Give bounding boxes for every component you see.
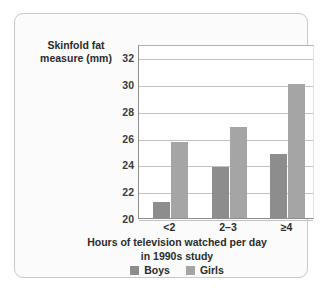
y-tick-label: 32 xyxy=(112,52,134,64)
y-tick-label: 20 xyxy=(112,213,134,225)
x-axis-title-line-2: in 1990s study xyxy=(37,250,317,264)
x-axis-tick-labels: <22–3≥4 xyxy=(138,221,314,236)
legend-label: Girls xyxy=(200,264,224,276)
y-axis-title-line-2: measure (mm) xyxy=(31,52,121,65)
legend-item-girls[interactable]: Girls xyxy=(186,264,224,276)
y-tick-label: 26 xyxy=(112,133,134,145)
x-tick-label: ≥4 xyxy=(281,221,293,233)
bar-group xyxy=(153,46,188,218)
y-tick-label: 30 xyxy=(112,79,134,91)
bar-girls-3[interactable] xyxy=(288,84,305,218)
legend-swatch-icon xyxy=(186,266,195,275)
y-axis-title-line-1: Skinfold fat xyxy=(31,39,121,52)
y-axis-tick-labels: 20222426283032 xyxy=(110,45,134,219)
plot-area xyxy=(138,45,314,219)
bar-girls-2[interactable] xyxy=(230,127,247,218)
bar-group xyxy=(212,46,247,218)
x-axis-title: Hours of television watched per day in 1… xyxy=(37,236,317,263)
y-tick-label: 22 xyxy=(112,186,134,198)
legend-label: Boys xyxy=(144,264,170,276)
legend-swatch-icon xyxy=(130,266,139,275)
y-axis-title: Skinfold fat measure (mm) xyxy=(31,39,121,65)
bars-layer xyxy=(139,46,313,218)
x-tick-label: 2–3 xyxy=(219,221,237,233)
y-tick-label: 24 xyxy=(112,159,134,171)
x-tick-label: <2 xyxy=(163,221,175,233)
y-tick-label: 28 xyxy=(112,106,134,118)
x-axis-title-line-1: Hours of television watched per day xyxy=(37,236,317,250)
chart-legend: BoysGirls xyxy=(37,264,317,276)
bar-girls-1[interactable] xyxy=(171,142,188,218)
bar-boys-2[interactable] xyxy=(212,167,229,218)
legend-item-boys[interactable]: Boys xyxy=(130,264,170,276)
bar-boys-3[interactable] xyxy=(270,154,287,218)
bar-boys-1[interactable] xyxy=(153,202,170,218)
chart-frame: Skinfold fat measure (mm) 20222426283032… xyxy=(14,13,308,278)
bar-group xyxy=(270,46,305,218)
